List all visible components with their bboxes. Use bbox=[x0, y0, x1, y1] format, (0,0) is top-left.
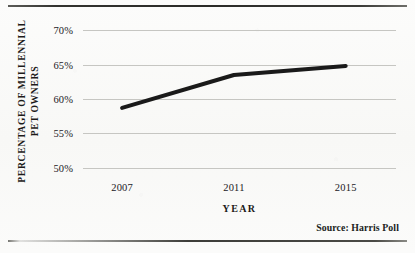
y-axis-tick-label: 60% bbox=[53, 94, 73, 105]
y-axis-tick-label: 65% bbox=[53, 59, 73, 70]
y-axis-tick-label: 50% bbox=[53, 162, 73, 173]
y-axis-tick-label: 70% bbox=[53, 25, 73, 36]
x-axis-tick-label: 2007 bbox=[111, 182, 133, 193]
chart-figure: PERCENTAGE OF MILLENNIAL PET OWNERS 70% … bbox=[0, 0, 415, 253]
x-axis-title: YEAR bbox=[83, 203, 396, 214]
y-axis-tick-label: 55% bbox=[53, 128, 73, 139]
plot-area bbox=[83, 20, 396, 178]
y-axis-tick-labels: 70% 65% 60% 55% 50% bbox=[0, 20, 79, 178]
x-axis-tick-label: 2015 bbox=[335, 182, 357, 193]
x-axis-tick-labels: 2007 2011 2015 bbox=[83, 182, 396, 198]
top-horizontal-rule bbox=[8, 5, 407, 7]
source-note: Source: Harris Poll bbox=[316, 222, 399, 233]
x-axis-tick-label: 2011 bbox=[223, 182, 244, 193]
data-series-line bbox=[83, 20, 396, 178]
bottom-horizontal-rule bbox=[8, 240, 407, 242]
